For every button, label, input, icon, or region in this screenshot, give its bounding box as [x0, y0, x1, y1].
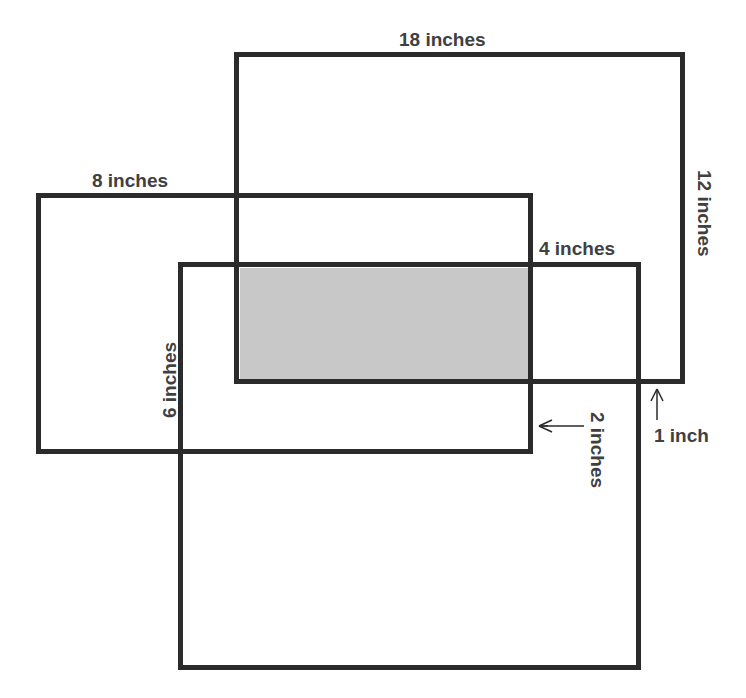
dimension-arrows [0, 0, 746, 698]
arrow-left-icon [539, 420, 584, 432]
arrow-up-icon [651, 389, 663, 420]
